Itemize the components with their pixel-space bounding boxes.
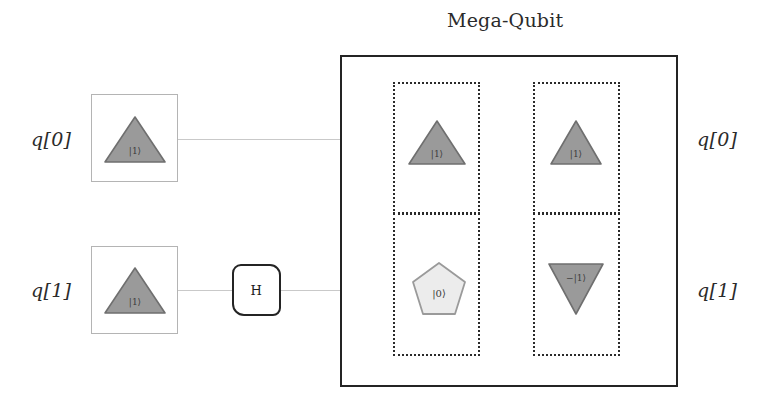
state-label: −|1⟩ <box>566 273 586 284</box>
qubit-label-left-q0: q[0] <box>31 128 71 150</box>
state-shape-input-q1: |1⟩ <box>101 263 169 319</box>
qubit-label-right-q1: q[1] <box>697 279 737 301</box>
wire-q1-segment-left <box>178 290 232 291</box>
state-shape-c1-r1: −|1⟩ <box>543 258 609 320</box>
qubit-label-left-q1: q[1] <box>31 279 71 301</box>
mega-qubit-title: Mega-Qubit <box>447 9 563 31</box>
state-label: |1⟩ <box>570 149 582 160</box>
state-shape-input-q0: |1⟩ <box>101 112 169 168</box>
gate-h[interactable]: H <box>232 264 281 316</box>
wire-q1-segment-right <box>280 290 341 291</box>
gate-h-label: H <box>251 283 263 298</box>
state-label: |0⟩ <box>432 288 446 300</box>
circuit-diagram: q[0] q[1] q[0] q[1] |1⟩ |1⟩ H Mega-Qubit… <box>0 0 766 405</box>
qubit-label-right-q0: q[0] <box>697 128 737 150</box>
state-label: |1⟩ <box>129 146 141 157</box>
state-shape-c1-r0: |1⟩ <box>546 117 606 169</box>
state-label: |1⟩ <box>431 149 443 160</box>
mega-qubit-box <box>340 55 678 387</box>
triangle-down-glyph <box>549 264 603 314</box>
wire-q0-segment-left <box>178 139 341 140</box>
state-label: |1⟩ <box>129 297 141 308</box>
state-shape-c0-r0: |1⟩ <box>405 117 469 169</box>
state-shape-c0-r1: |0⟩ <box>409 260 469 320</box>
